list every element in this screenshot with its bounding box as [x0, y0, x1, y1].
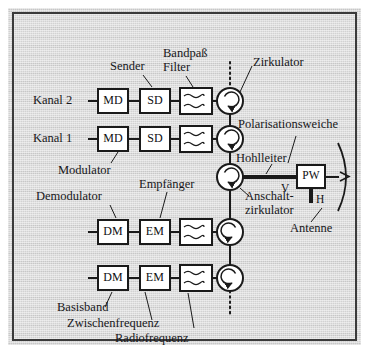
rx1-em-label: EM — [140, 224, 170, 239]
rx1-dm-label: DM — [98, 224, 128, 239]
antenna-feed-arrow — [340, 172, 349, 181]
annotation-zirkulator: Zirkulator — [253, 56, 304, 69]
kanal1-bandpass-filter-box — [180, 126, 212, 152]
channel-label-kanal2: Kanal 2 — [33, 94, 72, 107]
channel-label-kanal1: Kanal 1 — [33, 132, 72, 145]
rx2-em-label: EM — [140, 270, 170, 285]
annotation-hohlleiter: Hohlleiter — [236, 152, 287, 165]
figure-root: MD SD MD SD DM EM DM EM PW V H Kanal 2 K… — [0, 0, 372, 359]
leader-sender — [143, 75, 152, 87]
annotation-empfaenger: Empfänger — [139, 178, 195, 191]
leader-bandpass — [186, 76, 193, 87]
port-label-horizontal: H — [316, 193, 324, 205]
annotation-modulator: Modulator — [58, 164, 111, 177]
leader-zirkulator — [240, 66, 252, 92]
kanal1-md-label: MD — [98, 131, 128, 146]
leader-empfaenger — [160, 192, 167, 218]
rx2-dm-label: DM — [98, 270, 128, 285]
kanal2-md-label: MD — [98, 93, 128, 108]
leader-hohlleiter — [266, 164, 272, 174]
kanal1-sd-label: SD — [140, 131, 170, 146]
leader-polarisationsweiche — [288, 136, 296, 163]
antenna-reflector-arc — [338, 143, 346, 211]
annotation-demodulator: Demodulator — [36, 190, 102, 203]
annotation-basisband: Basisband — [57, 301, 108, 314]
polarisationsweiche-pw-label: PW — [297, 169, 325, 181]
leader-modulator — [111, 152, 118, 163]
leader-demodulator — [110, 205, 116, 218]
annotation-radiofrequenz: Radiofrequenz — [115, 332, 189, 345]
leader-radiofrequenz — [188, 293, 194, 328]
rx2-bandpass-filter-box — [180, 265, 212, 291]
annotation-polarisationsweiche: Polarisationsweiche — [238, 118, 338, 131]
kanal2-bandpass-filter-box — [180, 88, 212, 114]
annotation-sender: Sender — [110, 60, 145, 73]
annotation-antenne: Antenne — [290, 222, 332, 235]
annotation-bandpass-line2: Filter — [163, 61, 190, 74]
annotation-zwischenfrequenz: Zwischenfrequenz — [67, 317, 159, 330]
annotation-anschalt-line1: Anschalt- — [245, 190, 294, 203]
leader-antenne — [311, 208, 322, 222]
annotation-bandpass-line1: Bandpaß — [163, 47, 207, 60]
annotation-anschalt-line2: zirkulator — [245, 204, 294, 217]
kanal2-sd-label: SD — [140, 93, 170, 108]
rx1-bandpass-filter-box — [180, 219, 212, 245]
